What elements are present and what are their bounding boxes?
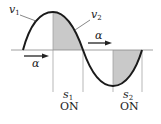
v2-label: v2 [91, 9, 102, 22]
alpha-label: α [95, 30, 102, 41]
v2-pointer-line [75, 20, 90, 30]
shaded-region-negative [113, 50, 142, 86]
s2-state-label: ON [120, 101, 139, 112]
s1-state-label: ON [60, 101, 79, 112]
v1-label: v1 [9, 4, 20, 17]
alpha-label: α [32, 58, 39, 69]
v1-pointer-line [20, 15, 36, 21]
shaded-region-positive [53, 12, 83, 50]
